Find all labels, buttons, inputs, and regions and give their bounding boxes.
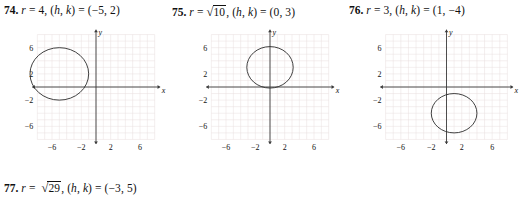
problem-75-center-mid: ) = ( bbox=[253, 6, 273, 18]
x-tick-label: −2 bbox=[251, 143, 260, 152]
x-tick-label: −2 bbox=[77, 143, 86, 152]
y-tick-label: −2 bbox=[25, 96, 34, 105]
problem-77-radical: √29 bbox=[41, 181, 61, 195]
radical-sign-icon: √ bbox=[207, 6, 214, 19]
x-tick-label: 6 bbox=[138, 143, 142, 152]
y-axis-label: y bbox=[98, 28, 103, 37]
problem-76-radius-eq: = 3, bbox=[374, 4, 392, 16]
problem-77-center-values: −3, 5 bbox=[109, 182, 133, 194]
y-tick-label: 6 bbox=[203, 44, 207, 53]
y-tick-label: −2 bbox=[199, 96, 208, 105]
problem-74-radius-eq: = 4, bbox=[29, 4, 47, 16]
problem-77-number: 77. bbox=[4, 182, 18, 194]
x-axis-arrow-right bbox=[511, 85, 514, 89]
y-axis-arrow-up bbox=[268, 30, 272, 33]
coordinate-plane: −6−226−6−226xy bbox=[356, 22, 521, 162]
coordinate-plane: −6−226−6−226xy bbox=[8, 22, 168, 162]
tick-labels: −6−226−6−226 bbox=[373, 44, 494, 153]
problem-76-statement: 76. r = 3, (h, k) = (1, −4) bbox=[349, 5, 465, 17]
x-tick-label: 6 bbox=[312, 143, 316, 152]
x-axis-arrow-left bbox=[206, 85, 209, 89]
problem-77-statement: 77. r = √29, (h, k) = (−3, 5) bbox=[4, 181, 137, 195]
problem-75-statement: 75. r = √10, (h, k) = (0, 3) bbox=[172, 5, 295, 19]
graph-problem-75: −6−226−6−226xy bbox=[182, 22, 342, 162]
problem-74-center-values: −5, 2 bbox=[92, 4, 116, 16]
y-axis-arrow-down bbox=[94, 141, 98, 144]
y-tick-label: −2 bbox=[373, 96, 382, 105]
tick-labels: −6−226−6−226 bbox=[199, 44, 316, 153]
x-tick-label: −6 bbox=[222, 143, 231, 152]
y-tick-label: 2 bbox=[203, 70, 207, 79]
problem-76-center-mid: ) = ( bbox=[416, 4, 436, 16]
x-axis-label: x bbox=[514, 86, 519, 95]
y-tick-label: 2 bbox=[378, 70, 382, 79]
x-tick-label: 2 bbox=[460, 143, 464, 152]
problem-75-radicand: 10 bbox=[213, 5, 227, 18]
problem-75-center-suffix: ) bbox=[291, 6, 295, 18]
axes bbox=[380, 30, 513, 144]
y-axis-arrow-up bbox=[445, 30, 449, 33]
x-axis-arrow-right bbox=[158, 85, 161, 89]
y-tick-label: −6 bbox=[199, 122, 208, 131]
problem-77-post-radical: , bbox=[61, 182, 64, 194]
tick-labels: −6−226−6−226 bbox=[25, 44, 142, 153]
problem-76-r-label: r bbox=[366, 4, 371, 16]
x-tick-label: 2 bbox=[283, 143, 287, 152]
problem-74-center-mid: ) = ( bbox=[71, 4, 91, 16]
graph-problem-74: −6−226−6−226xy bbox=[8, 22, 168, 162]
problem-74-r-label: r bbox=[21, 4, 26, 16]
problem-75-post-radical: , bbox=[226, 6, 229, 18]
y-axis-label: y bbox=[448, 28, 453, 37]
exercise-page: 74. r = 4, (h, k) = (−5, 2) 75. r = √10,… bbox=[0, 0, 526, 202]
x-tick-label: 6 bbox=[490, 143, 494, 152]
x-tick-label: −6 bbox=[397, 143, 406, 152]
y-tick-label: −6 bbox=[373, 122, 382, 131]
problem-77-radicand: 29 bbox=[47, 181, 61, 194]
y-tick-label: −6 bbox=[25, 122, 34, 131]
problem-75-center-values: 0, 3 bbox=[274, 6, 292, 18]
y-tick-label: 6 bbox=[378, 44, 382, 53]
x-tick-label: −2 bbox=[427, 143, 436, 152]
x-axis-label: x bbox=[335, 86, 340, 95]
radical-sign-icon: √ bbox=[41, 182, 48, 195]
problem-77-r-label: r bbox=[21, 182, 26, 194]
problem-76-number: 76. bbox=[349, 4, 363, 16]
axes bbox=[32, 30, 160, 144]
problem-75-number: 75. bbox=[172, 6, 186, 18]
graph-problem-76: −6−226−6−226xy bbox=[356, 22, 521, 162]
x-axis-label: x bbox=[161, 86, 166, 95]
y-axis-arrow-down bbox=[268, 141, 272, 144]
problem-75-radius-eq: = bbox=[197, 6, 204, 18]
y-axis-arrow-down bbox=[445, 141, 449, 144]
problem-75-r-label: r bbox=[189, 6, 194, 18]
x-axis-arrow-left bbox=[380, 85, 383, 89]
problem-74-number: 74. bbox=[4, 4, 18, 16]
x-tick-label: −6 bbox=[48, 143, 57, 152]
problem-74-statement: 74. r = 4, (h, k) = (−5, 2) bbox=[4, 5, 120, 17]
x-axis-arrow-right bbox=[332, 85, 335, 89]
problem-74-center-suffix: ) bbox=[116, 4, 120, 16]
coordinate-plane: −6−226−6−226xy bbox=[182, 22, 342, 162]
y-axis-arrow-up bbox=[94, 30, 98, 33]
y-axis-label: y bbox=[272, 28, 277, 37]
problem-77-center-suffix: ) bbox=[133, 182, 137, 194]
x-tick-label: 2 bbox=[109, 143, 113, 152]
problem-76-center-suffix: ) bbox=[461, 4, 465, 16]
problem-77-center-mid: ) = ( bbox=[88, 182, 108, 194]
problem-76-center-values: 1, −4 bbox=[437, 4, 461, 16]
problem-77-radius-eq: = bbox=[29, 182, 36, 194]
y-tick-label: 6 bbox=[29, 44, 33, 53]
problem-75-radical: √10 bbox=[207, 5, 227, 19]
